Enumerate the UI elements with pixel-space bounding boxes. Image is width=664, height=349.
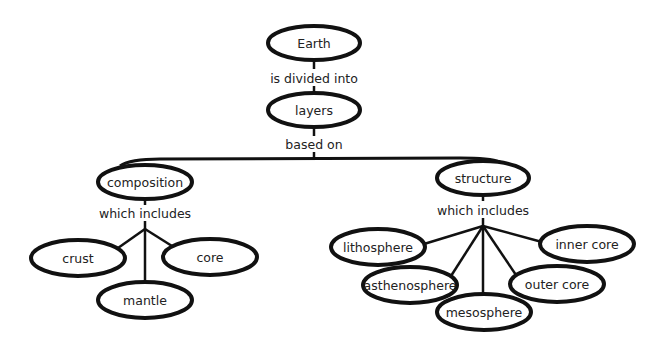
node-mantle: mantle [98,282,192,318]
node-crust-label: crust [62,251,93,266]
edge-to-core [145,229,172,246]
node-lithosphere: lithosphere [331,229,425,265]
node-crust: crust [31,240,125,276]
node-earth-label: Earth [297,36,331,51]
node-mantle-label: mantle [123,293,167,308]
node-core-label: core [196,250,223,265]
node-mesosphere-label: mesosphere [446,305,523,320]
node-composition: composition [98,165,192,199]
node-composition-label: composition [107,175,183,190]
node-asthenosphere: asthenosphere [363,267,457,303]
node-outer-core-label: outer core [525,277,590,292]
node-layers: layers [268,93,360,127]
node-core: core [163,239,257,275]
earth-layers-concept-map: is divided into based on which includes … [0,0,664,349]
node-lithosphere-label: lithosphere [343,240,413,255]
node-outer-core: outer core [510,266,604,302]
node-inner-core: inner core [540,226,634,262]
link-label-based-on: based on [285,137,342,152]
node-structure-label: structure [455,171,512,186]
node-structure: structure [437,161,529,195]
node-layers-label: layers [295,103,333,118]
link-label-is-divided-into: is divided into [270,71,358,86]
edge-branch-bar [120,158,500,166]
node-mesosphere: mesosphere [437,294,531,330]
edge-to-crust [118,229,145,248]
link-label-structure-which-includes: which includes [437,203,529,218]
node-asthenosphere-label: asthenosphere [364,278,457,293]
node-earth: Earth [268,26,360,60]
node-inner-core-label: inner core [555,237,619,252]
link-label-composition-which-includes: which includes [99,206,191,221]
